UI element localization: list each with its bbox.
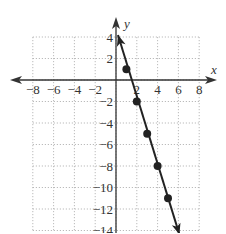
data-point <box>164 194 172 202</box>
y-tick-label: −8 <box>99 159 113 174</box>
y-tick-label: 2 <box>107 51 114 66</box>
x-axis-label: x <box>210 62 217 77</box>
coordinate-plane: xy −8−6−4−2246842−2−4−6−8−10−12−14 <box>0 0 226 233</box>
y-tick-label: −12 <box>93 202 113 217</box>
data-point <box>133 98 141 106</box>
y-tick-label: −2 <box>99 94 113 109</box>
x-tick-label: −6 <box>47 82 61 97</box>
y-tick-label: 4 <box>107 30 114 45</box>
x-tick-label: −4 <box>67 82 81 97</box>
tick-labels: −8−6−4−2246842−2−4−6−8−10−12−14 <box>26 30 203 234</box>
data-point <box>143 130 151 138</box>
y-axis-label: y <box>122 16 130 31</box>
axes: xy <box>10 16 217 233</box>
x-tick-label: 4 <box>154 82 161 97</box>
data-point <box>122 65 130 73</box>
x-tick-label: −8 <box>26 82 40 97</box>
data-point <box>154 162 162 170</box>
y-tick-label: −6 <box>99 137 113 152</box>
x-tick-label: 6 <box>175 82 182 97</box>
y-tick-label: −4 <box>99 116 113 131</box>
x-tick-label: 8 <box>196 82 203 97</box>
y-tick-label: −14 <box>93 223 114 233</box>
y-tick-label: −10 <box>93 180 113 195</box>
data-series <box>117 35 181 233</box>
